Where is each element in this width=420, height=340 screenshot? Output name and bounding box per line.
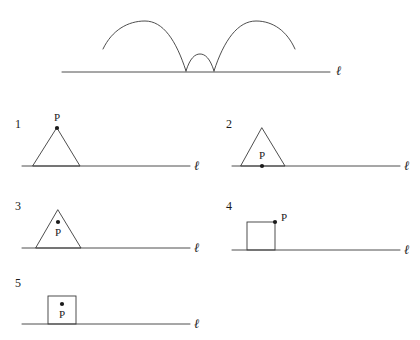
option5-point-p-dot — [60, 302, 64, 306]
option4-point-p-label: P — [281, 212, 287, 223]
option3-line-label-ell: ℓ — [194, 241, 199, 254]
option5-point-p-label: P — [59, 309, 65, 320]
option2-point-p-dot — [260, 164, 264, 168]
top-line-label-ell: ℓ — [336, 64, 341, 77]
option4-square — [247, 222, 275, 250]
option-number-3: 3 — [15, 200, 21, 212]
option2-line-label-ell: ℓ — [404, 159, 409, 172]
option-number-1: 1 — [15, 118, 21, 130]
middle-small-arc — [186, 54, 214, 71]
geometry-figure — [0, 0, 420, 340]
option3-point-p-label: P — [55, 227, 61, 238]
right-large-arc — [214, 21, 295, 71]
left-large-arc — [103, 21, 186, 71]
option-number-5: 5 — [15, 277, 21, 289]
option5-line-label-ell: ℓ — [194, 317, 199, 330]
option1-point-p-label: P — [54, 112, 60, 123]
option4-point-p-dot — [273, 220, 277, 224]
diagram-page: ℓ 1 P ℓ 2 P ℓ 3 P ℓ 4 P ℓ 5 P ℓ — [0, 0, 420, 340]
option-number-4: 4 — [226, 200, 232, 212]
option2-point-p-label: P — [259, 150, 265, 161]
option1-point-p-dot — [55, 126, 59, 130]
option3-point-p-dot — [56, 220, 60, 224]
option1-line-label-ell: ℓ — [194, 159, 199, 172]
option-number-2: 2 — [226, 118, 232, 130]
option4-line-label-ell: ℓ — [404, 243, 409, 256]
option1-triangle — [33, 128, 80, 166]
